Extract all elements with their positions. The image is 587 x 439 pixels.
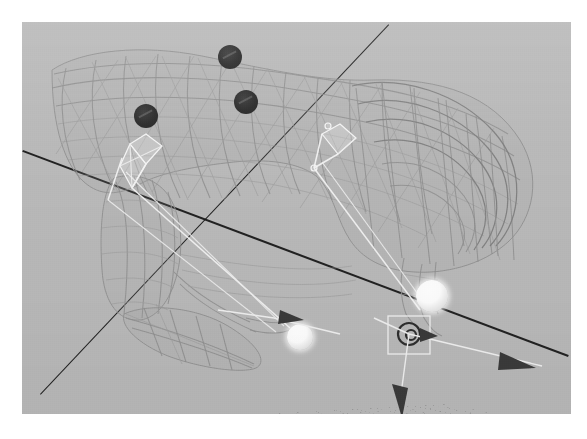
gizmo-layer[interactable] (22, 22, 571, 414)
empty-marker-2[interactable] (234, 90, 258, 114)
empty-marker-3[interactable] (134, 104, 158, 128)
gizmo-arrow-z (392, 384, 408, 414)
transform-gizmo-rear[interactable] (374, 316, 542, 414)
viewport-3d[interactable]: 1 m X axis Y axis (22, 22, 571, 414)
gizmo-arrow-x (498, 352, 536, 370)
empty-marker-1[interactable] (218, 45, 242, 69)
view-orientation-label: User Perspective (0, 0, 1, 1)
transform-gizmo-front[interactable] (218, 310, 340, 334)
shading-mode-label: Wireframe (0, 0, 1, 1)
app-title: 3D Viewport (0, 0, 1, 1)
gizmo-arrow-x2 (278, 310, 304, 324)
screenshot-root: 3D Viewport Wireframe User Perspective 1… (0, 0, 587, 439)
